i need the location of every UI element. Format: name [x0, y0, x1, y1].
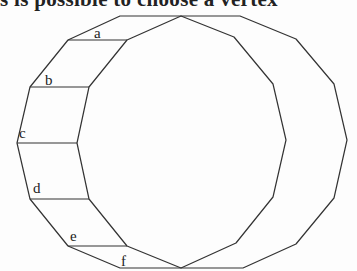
label-d: d: [33, 180, 41, 196]
inner-polygon: [77, 16, 286, 268]
polygon-diagram: a b c d e f: [0, 0, 357, 271]
label-c: c: [19, 125, 26, 141]
label-a: a: [94, 25, 101, 41]
outer-polygon: [17, 16, 347, 268]
label-b: b: [45, 72, 53, 88]
label-e: e: [70, 228, 77, 244]
label-f: f: [121, 253, 126, 269]
